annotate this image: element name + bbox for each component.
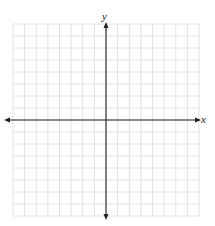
x-axis-label: x <box>201 114 206 125</box>
arrow-down-icon <box>104 214 109 220</box>
coordinate-plane <box>0 0 215 226</box>
y-axis-label: y <box>102 11 107 22</box>
arrow-left-icon <box>4 118 10 123</box>
